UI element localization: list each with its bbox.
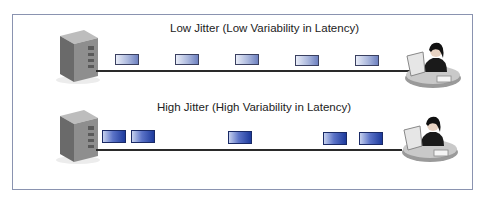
low-jitter-label: Low Jitter (Low Variability in Latency) (170, 22, 359, 34)
packet (235, 54, 259, 65)
packet (102, 130, 126, 143)
user-at-workstation-icon (403, 38, 465, 94)
server-tower-icon (54, 26, 104, 86)
packet (295, 55, 319, 66)
server-tower-icon (54, 106, 104, 166)
packet (355, 55, 379, 66)
packet (228, 131, 252, 144)
packet (359, 132, 383, 145)
packet (115, 54, 139, 65)
low-jitter-link (96, 70, 410, 72)
high-jitter-link (96, 149, 402, 151)
user-at-workstation-icon (400, 112, 462, 168)
packet (175, 54, 199, 65)
high-jitter-label: High Jitter (High Variability in Latency… (157, 101, 351, 113)
packet (131, 130, 155, 143)
packet (323, 132, 347, 145)
